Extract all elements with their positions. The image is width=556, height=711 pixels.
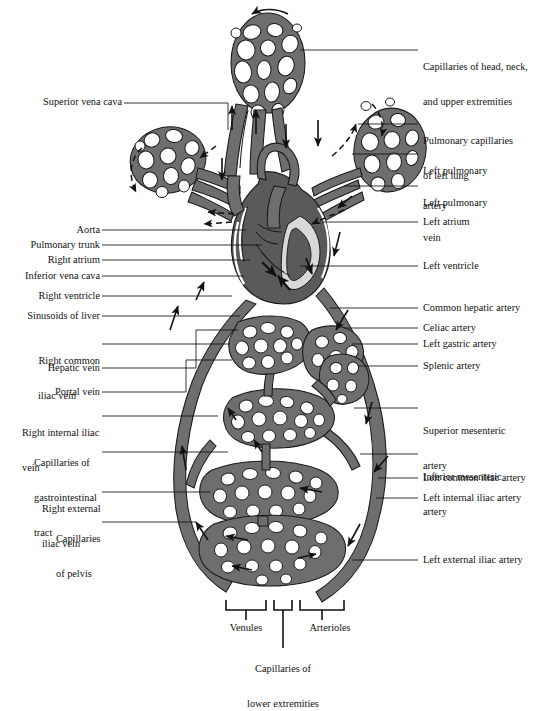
label-aorta: Aorta: [0, 224, 100, 236]
label-capillaries-of-lower-extremities: Capillaries of lower extremities: [213, 640, 353, 711]
label-capillaries-of-head-neck: Capillaries of head, neck, and upper ext…: [423, 38, 556, 119]
label-venules: Venules: [208, 622, 284, 634]
label-superior-vena-cava: Superior vena cava: [0, 96, 122, 108]
label-splenic-artery: Splenic artery: [423, 360, 556, 372]
label-capillaries-of-pelvis: Capillaries of pelvis: [56, 510, 136, 591]
capillary-bed-liver-sinusoids: [229, 316, 311, 374]
capillary-bed-lower-extremities: [199, 515, 346, 586]
label-inferior-mesenteric-artery: Inferior mesenteric artery: [423, 448, 556, 529]
capillary-bed-gastrointestinal: [224, 389, 335, 448]
label-portal-vein: Portal vein: [0, 386, 100, 398]
label-right-ventricle: Right ventricle: [0, 290, 100, 302]
label-pulmonary-trunk: Pulmonary trunk: [0, 239, 100, 251]
label-right-atrium: Right atrium: [0, 254, 100, 266]
label-left-external-iliac-artery: Left external iliac artery: [423, 554, 556, 566]
label-left-common-iliac-artery: Left common iliac artery: [423, 472, 556, 484]
label-inferior-vena-cava: Inferior vena cava: [0, 270, 100, 282]
label-arterioles: Arterioles: [292, 622, 368, 634]
label-left-gastric-artery: Left gastric artery: [423, 338, 556, 350]
label-left-ventricle: Left ventricle: [423, 260, 556, 272]
capillary-bed-left-lung: [347, 98, 432, 198]
label-sinusoids-of-liver: Sinusoids of liver: [0, 310, 100, 322]
vessel-network: [124, 13, 433, 602]
label-celiac-artery: Celiac artery: [423, 322, 556, 334]
label-common-hepatic-artery: Common hepatic artery: [423, 302, 556, 314]
label-left-pulmonary-vein: Left pulmonary vein: [423, 174, 556, 255]
label-hepatic-vein: Hepatic vein: [0, 362, 100, 374]
label-left-internal-iliac-artery: Left internal iliac artery: [423, 492, 556, 504]
label-left-atrium: Left atrium: [423, 216, 556, 228]
